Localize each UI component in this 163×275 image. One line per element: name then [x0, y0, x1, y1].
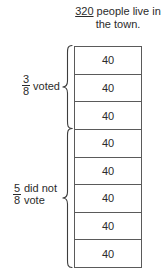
fraction-three-eighths: 3 8 — [22, 74, 30, 97]
caption-text: people live in the town. — [94, 5, 161, 30]
bar-cell: 40 — [75, 102, 141, 130]
total-population-value: 320 — [75, 5, 93, 17]
curly-brace-icon-did-not-vote — [61, 127, 73, 269]
bar-cell: 40 — [75, 47, 141, 75]
bar-cell-value: 40 — [102, 165, 114, 177]
bar-cell: 40 — [75, 158, 141, 186]
fraction-five-eighths: 5 8 — [13, 183, 21, 206]
fraction-denominator: 8 — [22, 86, 30, 97]
group-label-voted: 3 8 voted — [6, 74, 60, 97]
fraction-numerator: 5 — [13, 183, 21, 195]
group-label-text: did not vote — [24, 182, 60, 206]
bar-cell: 40 — [75, 213, 141, 241]
town-population-caption: 320 people live in the town. — [73, 5, 163, 31]
bar-cell-value: 40 — [102, 137, 114, 149]
curly-brace-icon-voted — [61, 44, 73, 130]
bar-cell-value: 40 — [102, 248, 114, 260]
group-label-did-not-vote: 5 8 did not vote — [2, 182, 60, 206]
bar-cell-value: 40 — [102, 82, 114, 94]
fraction-denominator: 8 — [13, 195, 21, 206]
group-label-text: voted — [33, 80, 60, 92]
bar-cell-value: 40 — [102, 54, 114, 66]
bar-cell: 40 — [75, 75, 141, 103]
bar-cell: 40 — [75, 240, 141, 267]
bar-cell-value: 40 — [102, 192, 114, 204]
bar-cell: 40 — [75, 185, 141, 213]
bar-cell-value: 40 — [102, 220, 114, 232]
bar-cell: 40 — [75, 130, 141, 158]
bar-cell-value: 40 — [102, 110, 114, 122]
bar-model: 40 40 40 40 40 40 40 40 — [74, 46, 142, 268]
